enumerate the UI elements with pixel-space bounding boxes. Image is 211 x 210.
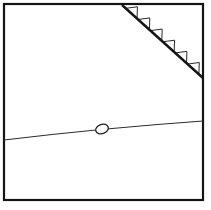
map-figure: Structural geology map sketch xyxy=(0,0,211,210)
map-canvas xyxy=(0,0,211,210)
figure-background xyxy=(0,0,211,210)
